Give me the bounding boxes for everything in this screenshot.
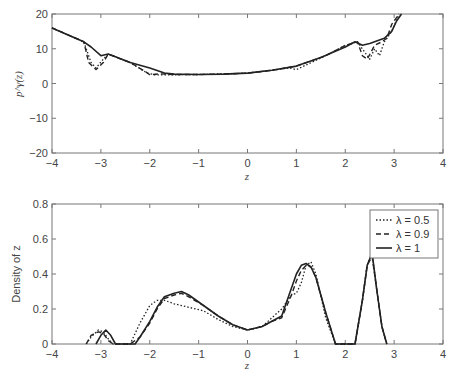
x-tick-label: 4 xyxy=(440,348,446,360)
series-line-dotted xyxy=(86,253,387,344)
bottom-series xyxy=(86,253,387,344)
bottom-x-axis-title: z xyxy=(244,359,250,371)
top-series xyxy=(52,14,402,75)
legend-label: λ = 0.5 xyxy=(396,214,429,226)
x-tick-label: −2 xyxy=(143,157,156,169)
top-plot-frame xyxy=(52,14,443,153)
series-line-dashed xyxy=(86,257,387,345)
x-tick-label: 3 xyxy=(391,348,397,360)
figure: −4−3−2−101234 20100−10−20 z p^γ(z) −4−3−… xyxy=(0,0,456,384)
x-tick-label: 3 xyxy=(391,157,397,169)
y-tick-label: 0 xyxy=(42,338,48,350)
y-tick-label: −20 xyxy=(29,147,48,159)
x-tick-label: −3 xyxy=(95,348,108,360)
x-tick-label: −1 xyxy=(192,348,205,360)
legend-label: λ = 1 xyxy=(396,242,420,254)
series-line-solid xyxy=(52,14,402,75)
legend-label: λ = 0.9 xyxy=(396,228,429,240)
x-tick-label: 4 xyxy=(440,157,446,169)
x-tick-label: 2 xyxy=(342,157,348,169)
legend: λ = 0.5 λ = 0.9 λ = 1 xyxy=(370,210,438,258)
bottom-plot: −4−3−2−101234 0.80.60.40.20 z Density of… xyxy=(10,198,446,371)
x-tick-label: 2 xyxy=(342,348,348,360)
y-tick-label: 0.2 xyxy=(33,303,48,315)
y-tick-label: 10 xyxy=(36,43,48,55)
y-tick-label: 0.4 xyxy=(33,268,48,280)
x-tick-label: −3 xyxy=(95,157,108,169)
top-plot: −4−3−2−101234 20100−10−20 z p^γ(z) xyxy=(12,8,446,182)
y-tick-label: −10 xyxy=(29,112,48,124)
top-y-ticks: 20100−10−20 xyxy=(29,8,443,159)
x-tick-label: 1 xyxy=(293,348,299,360)
series-line-dashed xyxy=(52,14,399,75)
top-y-axis-title: p^γ(z) xyxy=(12,71,25,98)
y-tick-label: 0.6 xyxy=(33,233,48,245)
x-tick-label: −1 xyxy=(192,157,205,169)
top-x-axis-title: z xyxy=(244,170,250,182)
y-tick-label: 20 xyxy=(36,8,48,20)
y-tick-label: 0 xyxy=(42,78,48,90)
x-tick-label: 0 xyxy=(244,157,250,169)
x-tick-label: −2 xyxy=(143,348,156,360)
series-line-dotted xyxy=(52,14,399,75)
bottom-y-axis-title: Density of z xyxy=(10,245,22,302)
y-tick-label: 0.8 xyxy=(33,198,48,210)
series-line-solid xyxy=(96,253,387,344)
x-tick-label: 1 xyxy=(293,157,299,169)
